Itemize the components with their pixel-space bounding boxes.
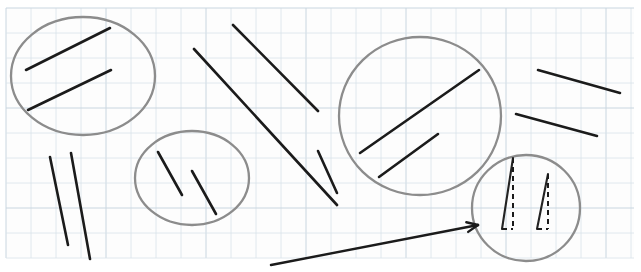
seg-g1-a <box>26 28 110 70</box>
seg-free-c <box>50 157 68 245</box>
circle-upper-right <box>339 37 501 195</box>
seg-free-e <box>538 70 620 93</box>
arrow-head-barb-2 <box>466 222 478 225</box>
pointer-arrow <box>271 222 478 265</box>
ink-drawing-layer <box>0 0 641 272</box>
arrow-shaft <box>271 225 478 265</box>
seg-free-b <box>233 25 318 111</box>
line-segments <box>26 25 620 259</box>
seg-g3-a <box>360 70 479 153</box>
seg-g2-b <box>192 171 216 214</box>
circle-middle <box>135 131 249 225</box>
grouping-circles <box>11 17 580 261</box>
worksheet-canvas <box>0 0 641 272</box>
seg-free-a <box>194 49 337 205</box>
seg-g1-b <box>28 70 111 110</box>
seg-free-f <box>516 114 597 136</box>
circle-upper-left <box>11 17 155 135</box>
triangle-right-hypotenuse <box>537 174 548 229</box>
seg-g3-b <box>379 134 438 177</box>
seg-g2-a <box>158 152 182 195</box>
dashed-triangles <box>502 158 548 229</box>
circle-lower-right <box>472 155 580 261</box>
triangle-left-hypotenuse <box>502 158 513 229</box>
seg-free-d <box>71 153 90 259</box>
